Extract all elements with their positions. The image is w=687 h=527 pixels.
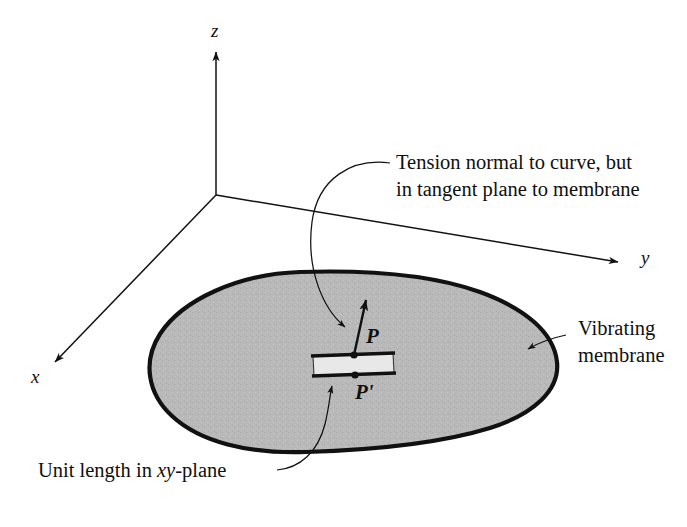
point-p-prime-label: P' bbox=[355, 380, 374, 405]
membrane-callout-line2: membrane bbox=[578, 343, 665, 367]
unit-length-callout: Unit length in xy-plane bbox=[38, 458, 226, 482]
membrane-figure: z y x P P' Tension normal to curve, but … bbox=[0, 0, 687, 527]
x-axis-label: x bbox=[31, 366, 39, 388]
z-axis-label: z bbox=[211, 20, 218, 42]
tension-callout-line1: Tension normal to curve, but bbox=[396, 150, 632, 174]
y-axis-label: y bbox=[641, 247, 649, 269]
unit-length-strip bbox=[311, 351, 396, 378]
figure-canvas bbox=[0, 0, 687, 527]
unit-length-italic: xy bbox=[157, 459, 175, 481]
point-p-label: P bbox=[366, 324, 379, 349]
point-p-prime-dot bbox=[351, 371, 358, 378]
y-axis bbox=[216, 195, 618, 262]
membrane-callout-line1: Vibrating bbox=[578, 316, 655, 340]
unit-length-prefix: Unit length in bbox=[38, 459, 157, 481]
unit-length-suffix: -plane bbox=[175, 459, 226, 481]
tension-callout-line2: in tangent plane to membrane bbox=[396, 177, 640, 201]
